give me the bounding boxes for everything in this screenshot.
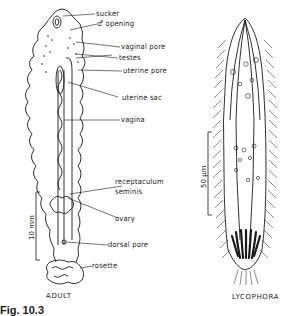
larva-scale-label: 50 µm xyxy=(200,166,208,188)
label-seminis: seminis xyxy=(115,188,142,196)
lycophora-cells xyxy=(231,58,260,182)
adult-testes-dots xyxy=(41,35,79,73)
lycophora-hooks xyxy=(232,230,260,258)
label-rosette: rosette xyxy=(92,262,117,270)
label-vagina: vagina xyxy=(121,116,145,124)
label-male-opening: ♂ opening xyxy=(97,20,134,28)
label-uterine-pore: uterine pore xyxy=(123,67,167,75)
label-vaginal-pore: vaginal pore xyxy=(121,43,165,51)
adult-scale-label: 10 mm xyxy=(28,215,36,240)
caption-lycophora: LYCOPHORA xyxy=(232,293,279,301)
label-receptaculum: receptaculum xyxy=(115,178,164,186)
label-dorsal-pore: dorsal pore xyxy=(108,241,148,249)
caption-adult: ADULT xyxy=(46,292,72,300)
larva-scale-bar xyxy=(208,132,212,215)
figure-number: Fig. 10.3 xyxy=(0,304,44,316)
label-testes: testes xyxy=(119,54,141,62)
lycophora-body xyxy=(223,18,266,270)
label-ovary: ovary xyxy=(115,215,135,223)
label-sucker: sucker xyxy=(96,10,119,18)
adult-scale-bar xyxy=(36,192,40,260)
label-uterine-sac: uterine sac xyxy=(122,94,162,102)
